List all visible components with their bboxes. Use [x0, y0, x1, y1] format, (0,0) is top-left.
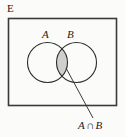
- callout-leader-line: [66, 68, 93, 118]
- callout-right-operand: B: [95, 119, 102, 131]
- set-a-label: A: [42, 29, 49, 40]
- universal-set-label: E: [7, 3, 14, 14]
- intersection-operator-icon: ∩: [85, 119, 95, 131]
- venn-diagram-canvas: [0, 0, 125, 137]
- venn-diagram-figure: E A B A∩B: [0, 0, 125, 137]
- intersection-callout-label: A∩B: [78, 120, 103, 131]
- set-b-label: B: [67, 29, 74, 40]
